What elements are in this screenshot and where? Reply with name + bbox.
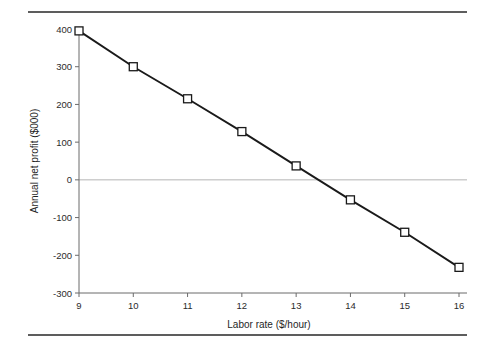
x-tick-label: 11	[183, 300, 193, 311]
y-tick-label: 200	[56, 99, 72, 110]
chart-figure: 4003002001000-100-200-300 91011121314151…	[0, 0, 495, 346]
x-tick-label: 13	[291, 300, 302, 311]
x-tick-label: 16	[454, 300, 465, 311]
y-tick-label: 100	[56, 137, 72, 148]
y-axis-ticks: 4003002001000-100-200-300	[53, 24, 79, 299]
line-chart-svg: 4003002001000-100-200-300 91011121314151…	[0, 0, 495, 346]
x-tick-label: 14	[345, 300, 356, 311]
y-tick-label: -100	[53, 212, 72, 223]
y-tick-label: 400	[56, 24, 72, 35]
x-tick-label: 15	[399, 300, 410, 311]
data-point-marker	[75, 27, 83, 35]
data-point-marker	[184, 95, 192, 103]
y-axis-title: Annual net profit ($000)	[29, 109, 40, 214]
plot-area: 4003002001000-100-200-300 91011121314151…	[0, 0, 495, 346]
x-axis-title: Labor rate ($/hour)	[227, 319, 310, 330]
y-tick-label: -200	[53, 250, 72, 261]
data-point-marker	[346, 196, 354, 204]
y-tick-label: 0	[67, 174, 72, 185]
y-tick-label: 300	[56, 61, 72, 72]
data-point-marker	[401, 228, 409, 236]
data-point-marker	[129, 63, 137, 71]
y-tick-label: -300	[53, 288, 72, 299]
data-point-marker	[455, 263, 463, 271]
x-tick-label: 10	[128, 300, 139, 311]
data-point-marker	[292, 162, 300, 170]
data-point-marker	[238, 128, 246, 136]
x-axis-ticks: 910111213141516	[76, 293, 464, 311]
x-tick-label: 9	[76, 300, 81, 311]
x-tick-label: 12	[237, 300, 248, 311]
